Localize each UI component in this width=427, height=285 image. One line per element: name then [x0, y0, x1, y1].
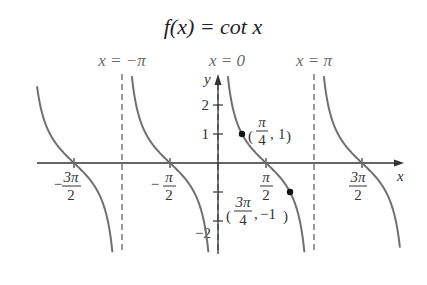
svg-text:1: 1: [278, 126, 286, 142]
x-axis-label: x: [396, 168, 404, 184]
svg-text:π: π: [262, 169, 270, 185]
cotangent-graph: f(x) = cot x x = −π x = 0 x = π x y 2 1 …: [0, 0, 427, 285]
svg-text:2: 2: [354, 187, 362, 203]
x-tick-label-neg-3pi-2: − 3π 2: [54, 169, 81, 203]
svg-text:3π: 3π: [234, 194, 251, 210]
svg-text:4: 4: [258, 132, 266, 148]
svg-text:3π: 3π: [349, 169, 366, 185]
x-tick-label-3pi-2: 3π 2: [349, 169, 367, 203]
point-label-pi-4: ( π 4 , 1 ): [248, 114, 291, 148]
svg-text:−: −: [54, 176, 62, 192]
y-axis-arrow-icon: [215, 74, 222, 85]
svg-text:(: (: [226, 208, 231, 225]
x-axis-arrow-icon: [394, 160, 404, 167]
svg-text:π: π: [258, 114, 266, 130]
y-tick-label-neg2: −2: [195, 225, 211, 241]
cot-branch-3: [324, 76, 400, 248]
y-tick-label-2: 2: [202, 97, 210, 113]
svg-text:,: ,: [254, 206, 258, 222]
svg-text:3π: 3π: [62, 169, 79, 185]
point-pi-4: [239, 131, 245, 137]
graph-title: f(x) = cot x: [164, 14, 263, 39]
svg-text:2: 2: [262, 187, 270, 203]
point-3pi-4: [287, 189, 293, 195]
y-axis-label: y: [202, 71, 211, 87]
svg-text:2: 2: [67, 187, 75, 203]
svg-text:−: −: [151, 176, 159, 192]
svg-text:2: 2: [165, 187, 173, 203]
asymptote-label-pi: x = π: [295, 51, 333, 70]
svg-text:,: ,: [270, 126, 274, 142]
svg-text:): ): [283, 208, 288, 225]
svg-text:(: (: [248, 128, 253, 145]
svg-text:−1: −1: [260, 206, 276, 222]
svg-text:): ): [286, 128, 291, 145]
asymptote-label-zero: x = 0: [208, 51, 246, 70]
x-tick-label-pi-2: π 2: [260, 169, 273, 203]
asymptote-label-neg-pi: x = −π: [97, 51, 146, 70]
svg-text:4: 4: [239, 212, 247, 228]
x-tick-label-neg-pi-2: − π 2: [151, 169, 176, 203]
svg-text:π: π: [165, 169, 173, 185]
y-tick-label-1: 1: [202, 126, 210, 142]
point-label-3pi-4: ( 3π 4 , −1 ): [226, 194, 288, 228]
